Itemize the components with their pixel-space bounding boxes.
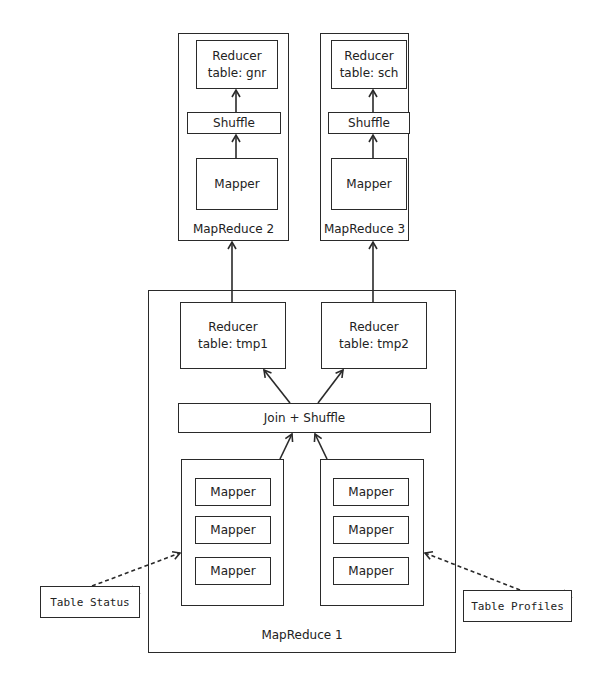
join-shuffle-label: Join + Shuffle bbox=[264, 410, 345, 427]
mr2-shuffle-label: Shuffle bbox=[213, 115, 255, 132]
mapper-label: Mapper bbox=[348, 522, 393, 539]
mapper-label: Mapper bbox=[210, 563, 255, 580]
table-status-note[interactable]: Table Status bbox=[40, 586, 140, 618]
mr2-label: MapReduce 2 bbox=[178, 222, 289, 236]
mr3-shuffle-label: Shuffle bbox=[348, 115, 390, 132]
left-mapper-3[interactable]: Mapper bbox=[195, 557, 271, 585]
mapper-label: Mapper bbox=[348, 563, 393, 580]
mr2-shuffle-node[interactable]: Shuffle bbox=[187, 112, 281, 134]
right-mapper-1[interactable]: Mapper bbox=[333, 478, 409, 506]
mr3-reducer-node[interactable]: Reducer table: sch bbox=[331, 40, 407, 89]
mr2-mapper-label: Mapper bbox=[214, 176, 259, 193]
tmp1-reducer-title: Reducer bbox=[208, 319, 257, 336]
table-profiles-note[interactable]: Table Profiles bbox=[463, 590, 572, 622]
tmp2-reducer-table: table: tmp2 bbox=[339, 336, 409, 353]
mapper-label: Mapper bbox=[210, 484, 255, 501]
tmp1-reducer-table: table: tmp1 bbox=[198, 336, 268, 353]
mr3-shuffle-node[interactable]: Shuffle bbox=[328, 112, 410, 134]
left-mapper-1[interactable]: Mapper bbox=[195, 478, 271, 506]
right-mapper-2[interactable]: Mapper bbox=[333, 516, 409, 544]
mr2-reducer-table: table: gnr bbox=[208, 65, 266, 82]
mr2-reducer-node[interactable]: Reducer table: gnr bbox=[196, 40, 278, 89]
table-profiles-label: Table Profiles bbox=[471, 600, 564, 613]
mapper-label: Mapper bbox=[210, 522, 255, 539]
right-mapper-3[interactable]: Mapper bbox=[333, 557, 409, 585]
table-status-label: Table Status bbox=[50, 596, 129, 609]
mr1-reducer-tmp1-node[interactable]: Reducer table: tmp1 bbox=[180, 302, 286, 369]
mapper-label: Mapper bbox=[348, 484, 393, 501]
mr3-mapper-node[interactable]: Mapper bbox=[331, 158, 407, 210]
tmp2-reducer-title: Reducer bbox=[349, 319, 398, 336]
mr3-reducer-title: Reducer bbox=[344, 48, 393, 65]
mr2-reducer-title: Reducer bbox=[212, 48, 261, 65]
mr3-label: MapReduce 3 bbox=[320, 222, 409, 236]
mr1-label: MapReduce 1 bbox=[148, 628, 456, 642]
left-mapper-2[interactable]: Mapper bbox=[195, 516, 271, 544]
mr3-mapper-label: Mapper bbox=[346, 176, 391, 193]
mr2-mapper-node[interactable]: Mapper bbox=[196, 158, 278, 210]
mr1-reducer-tmp2-node[interactable]: Reducer table: tmp2 bbox=[321, 302, 427, 369]
mr3-reducer-table: table: sch bbox=[340, 65, 399, 82]
join-shuffle-node[interactable]: Join + Shuffle bbox=[178, 403, 431, 433]
